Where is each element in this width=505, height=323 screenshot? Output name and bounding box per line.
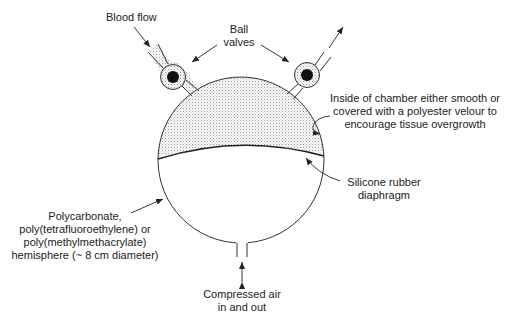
outlet-ball-valve: [287, 52, 331, 99]
ball-valve-left-pointer: [192, 45, 217, 62]
chamber-inside-line-1: Inside of chamber either smooth or: [326, 92, 504, 105]
hemisphere-line-2: poly(tetrafluoroethylene) or: [10, 223, 160, 236]
compressed-air-line-2: in and out: [192, 301, 292, 314]
ball-icon: [301, 69, 313, 81]
inlet-ball-valve: [148, 44, 199, 96]
chamber-inside-label: Inside of chamber either smooth or cover…: [326, 92, 504, 131]
ball-valve-right-pointer: [261, 45, 289, 62]
chamber-inside-line-3: encourage tissue overgrowth: [326, 118, 504, 131]
hemisphere-label: Polycarbonate, poly(tetrafluoroethylene)…: [10, 210, 160, 262]
hemisphere-line-3: poly(methylmethacrylate): [10, 236, 160, 249]
blood-flow-out-arrow: [329, 27, 343, 48]
ball-valves-line-1: Ball: [218, 23, 260, 36]
ball-valves-label: Ball valves: [218, 23, 260, 49]
air-tube: [236, 240, 248, 257]
compressed-air-label: Compressed air in and out: [192, 288, 292, 314]
blood-flow-in-arrow: [134, 27, 150, 47]
diaphragm-label: Silicone rubber diaphragm: [334, 176, 434, 202]
diaphragm-line-2: diaphragm: [334, 189, 434, 202]
hemisphere-line-4: hemisphere (~ 8 cm diameter): [10, 249, 160, 262]
compressed-air-line-1: Compressed air: [192, 288, 292, 301]
chamber-inside-line-2: covered with a polyester velour to: [326, 105, 504, 118]
diaphragm-line-1: Silicone rubber: [334, 176, 434, 189]
ball-valves-line-2: valves: [218, 36, 260, 49]
hemisphere-line-1: Polycarbonate,: [10, 210, 160, 223]
ball-icon: [167, 71, 179, 83]
blood-flow-label: Blood flow: [106, 11, 157, 24]
